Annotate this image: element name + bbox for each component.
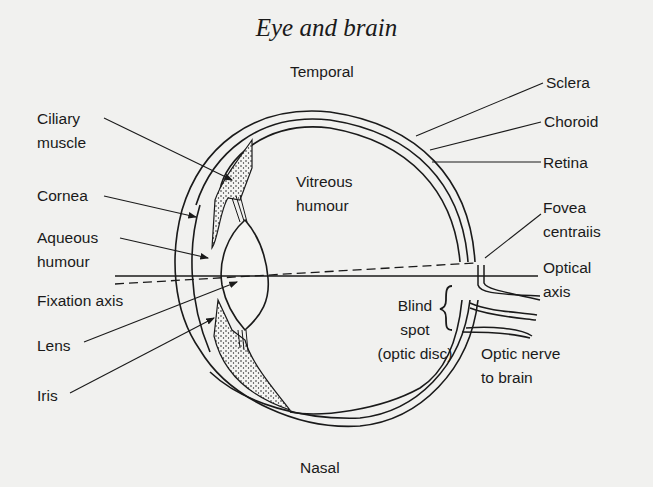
leader-sclera	[416, 83, 543, 136]
optic-nerve	[478, 265, 540, 296]
eye-illustration	[0, 0, 653, 487]
leader-ciliary	[104, 118, 232, 180]
fixation-axis-line	[115, 263, 475, 284]
leader-iris	[70, 318, 214, 393]
eye-diagram: Eye and brain Temporal Nasal Ciliary mus…	[0, 0, 653, 487]
leader-aqueous	[120, 238, 208, 258]
leader-choroid	[430, 122, 541, 150]
leader-fovea	[485, 214, 541, 258]
blind-spot-brace	[440, 286, 452, 330]
leader-cornea	[104, 196, 196, 217]
